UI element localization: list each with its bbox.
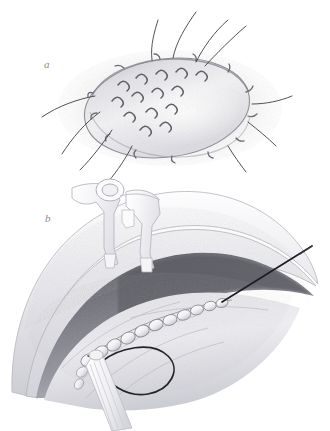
surgical-illustration-svg: a (0, 0, 330, 431)
panel-b-retractor-blade-right (140, 258, 152, 272)
panel-b-forceps-tip (89, 350, 103, 360)
panel-label-a: a (44, 58, 50, 70)
panel-b: b (12, 179, 320, 431)
figure-root: a (0, 0, 330, 431)
panel-b-retractor-blade-left (104, 254, 116, 268)
panel-label-b: b (45, 212, 51, 224)
panel-b-retractor-screw-knob (102, 184, 118, 196)
panel-b-retractor-slot (122, 210, 134, 228)
panel-a: a (42, 12, 292, 182)
